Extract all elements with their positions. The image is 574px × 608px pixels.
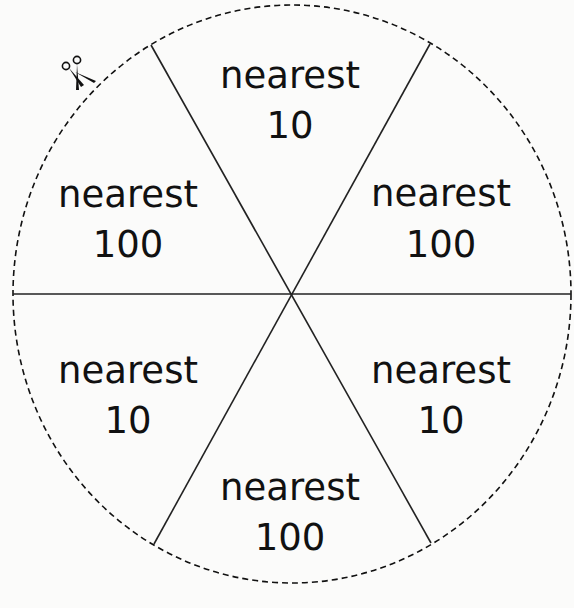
spinner-svg: nearest 10 nearest 100 nearest 10 neares…: [0, 0, 574, 608]
section-label-line2: 10: [417, 399, 464, 442]
section-label-line1: nearest: [58, 349, 198, 392]
section-label-line2: 10: [104, 399, 151, 442]
spinner-diagram: nearest 10 nearest 100 nearest 10 neares…: [0, 0, 574, 608]
section-label-line1: nearest: [371, 172, 511, 215]
section-label-line1: nearest: [220, 54, 360, 97]
section-top: nearest 10: [220, 54, 360, 147]
section-label-line1: nearest: [371, 349, 511, 392]
section-lower-right: nearest 10: [371, 349, 511, 442]
section-bottom: nearest 100: [220, 466, 360, 559]
section-label-line2: 100: [93, 223, 164, 266]
section-upper-right: nearest 100: [371, 172, 511, 266]
section-upper-left: nearest 100: [58, 173, 198, 266]
section-lower-left: nearest 10: [58, 349, 198, 442]
section-label-line2: 100: [406, 223, 477, 266]
section-label-line2: 100: [255, 516, 326, 559]
section-label-line1: nearest: [58, 173, 198, 216]
section-label-line2: 10: [266, 104, 313, 147]
scissors-icon: [62, 56, 96, 90]
section-label-line1: nearest: [220, 466, 360, 509]
